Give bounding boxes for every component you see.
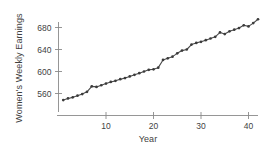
data-point bbox=[200, 40, 203, 43]
data-point bbox=[252, 22, 255, 25]
plot-area: 560600640680 10203040 bbox=[0, 0, 270, 159]
data-point bbox=[147, 69, 150, 72]
data-point bbox=[209, 37, 212, 40]
data-point bbox=[76, 94, 79, 97]
y-tick-label: 680 bbox=[37, 23, 51, 33]
data-point bbox=[185, 48, 188, 51]
series-markers bbox=[62, 18, 259, 102]
data-point bbox=[157, 66, 160, 69]
data-point bbox=[86, 91, 89, 94]
data-point bbox=[233, 28, 236, 31]
x-tick-label: 20 bbox=[149, 121, 159, 131]
data-point bbox=[214, 36, 217, 39]
data-point bbox=[71, 96, 74, 99]
data-point bbox=[223, 33, 226, 36]
data-point bbox=[166, 57, 169, 60]
data-point bbox=[81, 93, 84, 96]
data-point bbox=[114, 80, 117, 83]
data-point bbox=[109, 81, 112, 84]
data-point bbox=[238, 27, 241, 30]
chart-figure: Women's Weekly Earnings Year 56060064068… bbox=[0, 0, 270, 159]
y-axis: 560600640680 bbox=[37, 22, 62, 112]
x-tick-label: 30 bbox=[196, 121, 206, 131]
y-tick-label: 640 bbox=[37, 45, 51, 55]
data-point bbox=[95, 86, 98, 89]
x-axis-ticks: 10203040 bbox=[101, 112, 253, 131]
data-point bbox=[62, 99, 65, 102]
x-axis: 10203040 bbox=[57, 112, 258, 131]
data-series bbox=[62, 18, 259, 102]
x-tick-label: 40 bbox=[244, 121, 254, 131]
data-point bbox=[228, 30, 231, 33]
data-point bbox=[100, 84, 103, 87]
data-point bbox=[219, 31, 222, 34]
data-point bbox=[162, 59, 165, 62]
data-point bbox=[67, 97, 70, 100]
data-point bbox=[171, 55, 174, 58]
data-point bbox=[195, 42, 198, 45]
data-point bbox=[257, 18, 260, 21]
data-point bbox=[138, 72, 141, 75]
data-point bbox=[133, 73, 136, 76]
y-tick-label: 600 bbox=[37, 67, 51, 77]
data-point bbox=[242, 24, 245, 27]
data-point bbox=[90, 85, 93, 88]
data-point bbox=[152, 68, 155, 71]
data-point bbox=[204, 39, 207, 42]
data-point bbox=[119, 78, 122, 81]
data-point bbox=[105, 82, 108, 85]
data-point bbox=[124, 77, 127, 80]
data-point bbox=[176, 52, 179, 55]
data-point bbox=[128, 75, 131, 78]
data-point bbox=[190, 43, 193, 46]
y-tick-label: 560 bbox=[37, 89, 51, 99]
data-point bbox=[247, 25, 250, 28]
data-point bbox=[143, 70, 146, 73]
x-tick-label: 10 bbox=[101, 121, 111, 131]
data-point bbox=[181, 49, 184, 52]
